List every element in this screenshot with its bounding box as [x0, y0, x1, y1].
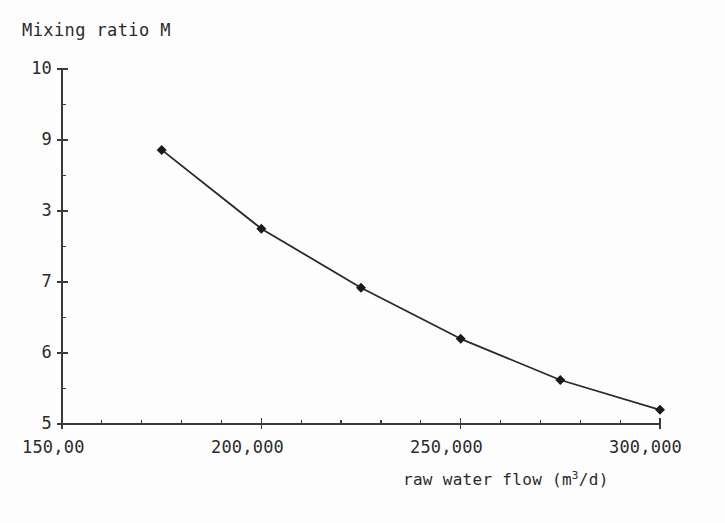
data-point-marker	[456, 334, 466, 344]
data-line	[162, 150, 660, 410]
plot-area	[0, 0, 725, 523]
data-point-marker	[356, 283, 366, 293]
data-point-marker	[555, 375, 565, 385]
chart-figure: Mixing ratio M 10 9 3 7 6 5 150,00 200,0…	[0, 0, 725, 523]
tick-marks	[57, 69, 660, 429]
data-markers	[157, 145, 665, 415]
data-point-marker	[655, 405, 665, 415]
axes	[62, 69, 660, 424]
